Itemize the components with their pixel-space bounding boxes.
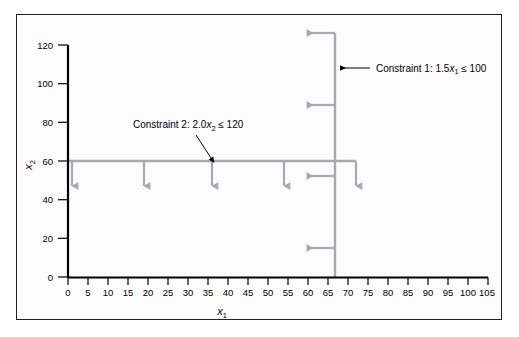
x-axis-title: x1 <box>216 305 227 320</box>
y-tick-labels: 120 100 80 60 40 20 0 <box>37 40 53 283</box>
x-tick-label: 20 <box>143 287 154 298</box>
x-tick-label: 75 <box>363 287 374 298</box>
x-tick-label: 95 <box>443 287 454 298</box>
x-tick-label: 30 <box>183 287 194 298</box>
constraint-1-direction-arrows <box>307 33 335 248</box>
y-tick-label: 40 <box>42 194 53 205</box>
x-tick-label: 45 <box>243 287 254 298</box>
x-tick-label: 100 <box>460 287 476 298</box>
y-tick-label: 20 <box>42 233 53 244</box>
figure-container: 120 100 80 60 40 20 0 0 5 10 15 20 25 30… <box>0 0 519 337</box>
x-tick-label: 65 <box>323 287 334 298</box>
y-tick-label: 120 <box>37 40 53 51</box>
constraint-1-prefix: Constraint 1: 1.5 <box>376 63 450 74</box>
constraint-1-suffix: ≤ 100 <box>459 63 487 74</box>
y-tick-label: 0 <box>48 272 53 283</box>
svg-text:x2: x2 <box>22 160 37 171</box>
x-tick-label: 55 <box>283 287 294 298</box>
x-tick-label: 10 <box>103 287 114 298</box>
chart-canvas: 120 100 80 60 40 20 0 0 5 10 15 20 25 30… <box>0 0 519 337</box>
x-axis-title-subscript: 1 <box>223 311 227 320</box>
constraint-1-annotation-label: Constraint 1: 1.5x1 ≤ 100 <box>376 63 487 77</box>
constraint-2-annotation-label: Constraint 2: 2.0x2 ≤ 120 <box>133 119 244 133</box>
constraint-2-direction-arrows <box>72 161 356 186</box>
constraint-2-prefix: Constraint 2: 2.0 <box>133 119 207 130</box>
x-tick-label: 70 <box>343 287 354 298</box>
x-tick-label: 40 <box>223 287 234 298</box>
x-tick-label: 60 <box>303 287 314 298</box>
x-tick-label: 25 <box>163 287 174 298</box>
svg-text:x1: x1 <box>216 305 227 320</box>
y-axis-title: x2 <box>22 160 37 171</box>
constraint-2-suffix: ≤ 120 <box>216 119 244 130</box>
x-tick-label: 5 <box>85 287 90 298</box>
x-tick-label: 80 <box>383 287 394 298</box>
y-tick-label: 60 <box>42 156 53 167</box>
x-tick-label: 90 <box>423 287 434 298</box>
x-tick-label: 105 <box>479 287 495 298</box>
x-tick-label: 0 <box>65 287 70 298</box>
y-axis-title-subscript: 2 <box>28 160 37 164</box>
y-axis <box>58 45 68 278</box>
constraint-2-annotation: Constraint 2: 2.0x2 ≤ 120 <box>133 119 244 158</box>
x-tick-labels: 0 5 10 15 20 25 30 35 40 45 50 55 60 65 … <box>65 287 495 298</box>
x-axis <box>68 278 488 286</box>
x-tick-label: 35 <box>203 287 214 298</box>
x-axis-ticks <box>68 278 488 286</box>
y-tick-label: 100 <box>37 78 53 89</box>
constraint-1-annotation: Constraint 1: 1.5x1 ≤ 100 <box>340 63 487 77</box>
x-tick-label: 50 <box>263 287 274 298</box>
y-tick-label: 80 <box>42 117 53 128</box>
x-tick-label: 15 <box>123 287 134 298</box>
x-tick-label: 85 <box>403 287 414 298</box>
